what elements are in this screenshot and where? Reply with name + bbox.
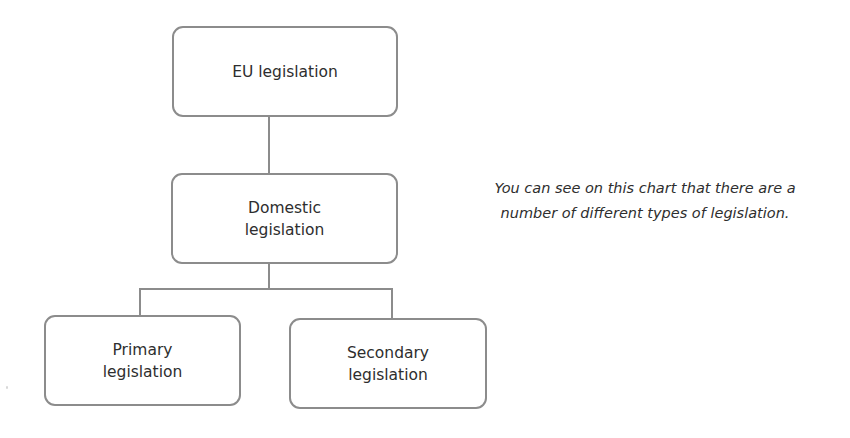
caption-line-1: You can see on this chart that there are… xyxy=(470,176,820,201)
connector-domestic-down xyxy=(268,262,270,290)
node-label-line-2: legislation xyxy=(245,219,325,241)
caption-line-2: number of different types of legislation… xyxy=(470,201,820,226)
node-label-line-2: legislation xyxy=(103,361,183,383)
connector-branch-horizontal xyxy=(139,288,393,290)
node-label-line-2: legislation xyxy=(347,364,429,386)
node-domestic-legislation: Domestic legislation xyxy=(171,173,398,264)
node-label-line-1: Domestic xyxy=(245,197,325,219)
connector-to-secondary xyxy=(391,288,393,319)
node-eu-legislation: EU legislation xyxy=(172,26,398,117)
node-label: EU legislation xyxy=(232,61,338,83)
scan-artifact xyxy=(6,386,8,389)
node-label-line-1: Secondary xyxy=(347,342,429,364)
node-primary-legislation: Primary legislation xyxy=(44,315,241,406)
connector-to-primary xyxy=(139,288,141,316)
diagram-caption: You can see on this chart that there are… xyxy=(470,176,820,226)
node-secondary-legislation: Secondary legislation xyxy=(289,318,487,409)
node-label-line-1: Primary xyxy=(103,339,183,361)
connector-eu-to-domestic xyxy=(268,116,270,174)
